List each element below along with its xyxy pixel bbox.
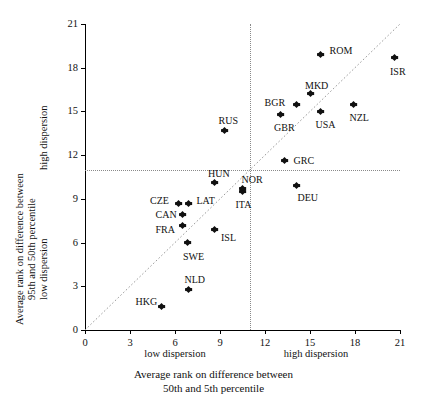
data-point-label-swe: SWE: [183, 252, 204, 262]
data-point-label-gbr: GBR: [274, 123, 295, 133]
x-tick-mark: [175, 330, 176, 334]
y-tick-label: 6: [73, 237, 78, 248]
data-point-label-nld: NLD: [185, 275, 206, 285]
x-tick-label: 3: [127, 338, 132, 349]
data-point-label-fra: FRA: [156, 225, 175, 235]
data-point-marker-isr: [390, 54, 397, 61]
data-point-label-hkg: HKG: [136, 297, 158, 307]
data-point-marker-cze: [174, 200, 181, 207]
y-tick-label: 21: [68, 19, 79, 30]
x-tick-mark: [400, 330, 401, 334]
data-point-label-can: CAN: [156, 210, 177, 220]
data-point-label-nzl: NZL: [350, 113, 369, 123]
x-tick-label: 9: [217, 338, 222, 349]
x-tick-mark: [265, 330, 266, 334]
x-tick-label: 21: [395, 338, 406, 349]
data-point-label-cze: CZE: [150, 196, 169, 206]
y-axis-zone-label-high: high dispersion: [38, 106, 49, 170]
y-tick-mark: [81, 68, 85, 69]
data-point-marker-rom: [317, 51, 324, 58]
data-point-marker-mkd: [306, 90, 313, 97]
y-tick-mark: [81, 286, 85, 287]
y-tick-label: 12: [68, 150, 79, 161]
data-point-marker-swe: [183, 239, 190, 246]
data-point-marker-can: [179, 211, 186, 218]
plot-area: 036912151821 036912151821 ROMISRMKDBGRNZ…: [85, 24, 400, 330]
y-tick-mark: [81, 199, 85, 200]
data-point-label-hun: HUN: [208, 169, 230, 179]
data-point-marker-deu: [293, 182, 300, 189]
y-axis-line: [85, 24, 86, 330]
data-point-label-rus: RUS: [219, 116, 238, 126]
y-tick-label: 15: [68, 106, 79, 117]
x-axis-title-line1: Average rank on difference between: [0, 367, 427, 381]
data-point-marker-isl: [210, 226, 217, 233]
x-tick-label: 15: [305, 338, 316, 349]
x-tick-mark: [130, 330, 131, 334]
data-point-marker-grc: [281, 157, 288, 164]
data-point-label-isr: ISR: [390, 67, 406, 77]
data-point-label-deu: DEU: [298, 193, 319, 203]
y-axis-title-line2: 95th and 50th percentile: [26, 198, 37, 300]
y-tick-mark: [81, 243, 85, 244]
x-axis-zone-label: high dispersion: [284, 348, 348, 359]
data-point-label-grc: GRC: [294, 156, 315, 166]
data-point-marker-hkg: [158, 303, 165, 310]
data-point-label-usa: USA: [316, 120, 336, 130]
data-point-label-bgr: BGR: [265, 98, 286, 108]
data-point-marker-lat: [185, 200, 192, 207]
y-tick-label: 3: [73, 281, 78, 292]
data-point-marker-rus: [221, 127, 228, 134]
data-point-label-nor: NOR: [242, 175, 263, 185]
x-tick-label: 0: [82, 338, 87, 349]
x-tick-mark: [355, 330, 356, 334]
data-point-label-lat: LAT: [197, 196, 215, 206]
y-axis-zone-label-low: low dispersion: [38, 238, 49, 300]
y-tick-label: 0: [73, 325, 78, 336]
x-axis-line: [85, 330, 400, 331]
data-point-marker-ita: [239, 188, 246, 195]
x-tick-label: 6: [172, 338, 177, 349]
data-point-label-isl: ISL: [221, 233, 236, 243]
data-point-marker-fra: [179, 222, 186, 229]
x-tick-mark: [310, 330, 311, 334]
horizontal-reference-line: [85, 170, 400, 171]
data-point-marker-hun: [210, 179, 217, 186]
x-axis-title-line2: 50th and 5th percentile: [0, 381, 427, 395]
y-tick-label: 9: [73, 194, 78, 205]
x-tick-mark: [85, 330, 86, 334]
x-tick-label: 12: [260, 338, 271, 349]
y-axis-title-line1: Average rank on difference between: [14, 173, 25, 325]
data-point-label-mkd: MKD: [305, 81, 328, 91]
data-point-marker-gbr: [276, 111, 283, 118]
data-point-label-rom: ROM: [330, 46, 353, 56]
data-point-marker-bgr: [293, 101, 300, 108]
y-tick-mark: [81, 155, 85, 156]
data-point-marker-nld: [185, 286, 192, 293]
y-tick-label: 18: [68, 62, 79, 73]
data-point-marker-nzl: [350, 101, 357, 108]
data-point-label-ita: ITA: [236, 200, 252, 210]
y-tick-mark: [81, 111, 85, 112]
x-tick-label: 18: [350, 338, 361, 349]
data-point-marker-usa: [317, 108, 324, 115]
x-axis-zone-label: low dispersion: [144, 348, 206, 359]
scatter-plot-figure: Average rank on difference between 95th …: [0, 0, 427, 403]
y-tick-mark: [81, 24, 85, 25]
y-axis-title: Average rank on difference between 95th …: [0, 0, 44, 360]
x-tick-mark: [220, 330, 221, 334]
